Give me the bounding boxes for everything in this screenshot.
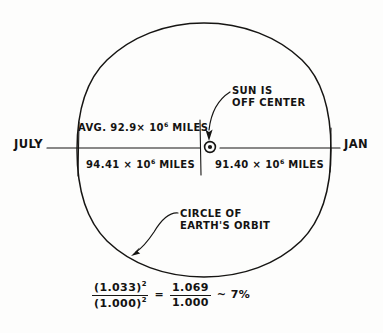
orbit-callout-label: CIRCLE OF EARTH'S ORBIT <box>180 208 270 232</box>
aphelion-distance-exponent: 6 <box>151 158 155 165</box>
sun-callout-line-2: OFF CENTER <box>232 97 306 109</box>
perihelion-distance-label: 91.40 × 106 MILES <box>215 158 324 171</box>
equation-right-denominator: 1.000 <box>170 295 211 309</box>
aphelion-distance-label: 94.41 × 106 MILES <box>86 158 195 171</box>
sun-callout-leader <box>209 92 230 130</box>
orbit-circle <box>77 23 331 277</box>
equation-left-numerator-exponent: 2 <box>142 280 147 288</box>
aphelion-distance-unit: MILES <box>159 159 195 170</box>
equation-right-fraction: 1.069 1.000 <box>170 282 211 309</box>
orbit-diagram-figure: JULY JAN AVG. 92.9× 106 MILES 94.41 × 10… <box>0 0 383 333</box>
sun-callout-line-1: SUN IS <box>232 85 306 97</box>
aphelion-distance-prefix: 94.41 <box>86 159 120 170</box>
average-distance-exponent: 6 <box>164 121 168 128</box>
orbit-callout-arrowhead <box>131 248 140 257</box>
average-distance-times: × 10 <box>137 122 164 133</box>
equation-left-numerator: (1.033)2 <box>92 281 148 295</box>
equation-right-numerator: 1.069 <box>170 282 211 295</box>
perihelion-distance-unit: MILES <box>288 159 324 170</box>
aphelion-distance-times: × 10 <box>124 159 151 170</box>
equation-approx-result: ~ 7% <box>216 289 251 302</box>
orbit-callout-leader <box>136 213 178 252</box>
equation-left-denominator: (1.000)2 <box>92 295 148 310</box>
perihelion-distance-exponent: 6 <box>280 158 284 165</box>
average-distance-label: AVG. 92.9× 106 MILES <box>78 121 208 134</box>
average-distance-prefix: AVG. 92.9 <box>78 122 137 133</box>
average-distance-unit: MILES <box>172 122 208 133</box>
axis-label-jan: JAN <box>344 138 368 152</box>
sun-callout-label: SUN IS OFF CENTER <box>232 85 306 109</box>
perihelion-distance-prefix: 91.40 <box>215 159 249 170</box>
ratio-equation: (1.033)2 (1.000)2 = 1.069 1.000 ~ 7% <box>92 281 251 309</box>
sun-icon-core <box>208 145 212 149</box>
equation-left-fraction: (1.033)2 (1.000)2 <box>92 281 148 309</box>
equation-equals-sign: = <box>153 289 165 302</box>
equation-left-denominator-exponent: 2 <box>142 296 147 304</box>
orbit-callout-line-1: CIRCLE OF <box>180 208 270 220</box>
axis-label-july: JULY <box>14 138 43 152</box>
equation-left-numerator-text: (1.033) <box>94 281 142 294</box>
equation-left-denominator-text: (1.000) <box>94 296 142 309</box>
perihelion-distance-times: × 10 <box>253 159 280 170</box>
orbit-callout-line-2: EARTH'S ORBIT <box>180 220 270 232</box>
